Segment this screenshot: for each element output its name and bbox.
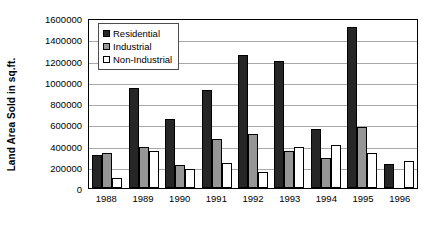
bar-industrial-1991 xyxy=(212,139,222,188)
y-axis-tick-label: 1000000 xyxy=(45,77,82,88)
bar-nonindustrial-1989 xyxy=(149,151,159,188)
legend-item-industrial: Industrial xyxy=(103,40,172,53)
bar-residential-1995 xyxy=(347,27,357,189)
bar-residential-1988 xyxy=(92,155,102,188)
y-axis-tick-label: 800000 xyxy=(50,99,82,110)
legend-label: Residential xyxy=(113,28,160,39)
bar-group-1993 xyxy=(271,20,307,188)
legend-item-non-industrial: Non-Industrial xyxy=(103,53,172,66)
bar-industrial-1989 xyxy=(139,147,149,188)
bar-nonindustrial-1996 xyxy=(404,161,414,188)
x-axis-tick-label: 1989 xyxy=(125,193,162,211)
bar-residential-1994 xyxy=(311,129,321,188)
bar-group-1996 xyxy=(381,20,417,188)
x-axis-tick-label: 1995 xyxy=(345,193,382,211)
bar-nonindustrial-1991 xyxy=(222,163,232,189)
bar-industrial-1993 xyxy=(284,151,294,188)
legend-label: Non-Industrial xyxy=(113,54,172,65)
x-axis-tick-label: 1988 xyxy=(88,193,125,211)
y-axis-tick-labels: 0200000400000600000800000100000012000001… xyxy=(22,14,86,189)
y-axis-tick-label: 0 xyxy=(77,184,82,195)
legend-swatch-icon xyxy=(103,43,110,50)
x-axis-tick-label: 1994 xyxy=(308,193,345,211)
bar-chart: Land Area Sold in sq.ft. 020000040000060… xyxy=(0,0,440,229)
x-axis-tick-label: 1991 xyxy=(198,193,235,211)
legend-label: Industrial xyxy=(113,41,152,52)
bar-group-1995 xyxy=(344,20,380,188)
bar-industrial-1994 xyxy=(321,158,331,188)
y-axis-tick-label: 1200000 xyxy=(45,56,82,67)
bar-residential-1996 xyxy=(384,164,394,188)
bar-group-1991 xyxy=(198,20,234,188)
legend-item-residential: Residential xyxy=(103,27,172,40)
y-axis-tick-label: 1600000 xyxy=(45,14,82,25)
x-axis-tick-label: 1990 xyxy=(161,193,198,211)
y-axis-tick-label: 1400000 xyxy=(45,35,82,46)
bar-nonindustrial-1993 xyxy=(294,147,304,188)
bar-nonindustrial-1988 xyxy=(112,178,122,188)
chart-legend: ResidentialIndustrialNon-Industrial xyxy=(98,23,179,70)
bar-industrial-1990 xyxy=(175,165,185,188)
bar-group-1992 xyxy=(235,20,271,188)
y-axis-tick-label: 400000 xyxy=(50,141,82,152)
legend-swatch-icon xyxy=(103,30,110,37)
y-axis-tick-label: 600000 xyxy=(50,120,82,131)
bar-industrial-1988 xyxy=(102,153,112,188)
bar-group-1994 xyxy=(308,20,344,188)
bar-industrial-1995 xyxy=(357,127,367,188)
legend-swatch-icon xyxy=(103,56,110,63)
bar-residential-1993 xyxy=(274,61,284,189)
y-axis-title: Land Area Sold in sq.ft. xyxy=(0,0,22,229)
x-axis-tick-label: 1993 xyxy=(271,193,308,211)
bar-nonindustrial-1995 xyxy=(367,153,377,188)
bar-nonindustrial-1994 xyxy=(331,145,341,188)
bar-residential-1989 xyxy=(129,88,139,188)
bar-industrial-1992 xyxy=(248,134,258,188)
bar-nonindustrial-1990 xyxy=(185,169,195,188)
x-axis-tick-label: 1992 xyxy=(235,193,272,211)
x-axis-tick-label: 1996 xyxy=(381,193,418,211)
bar-residential-1991 xyxy=(202,90,212,188)
bar-residential-1992 xyxy=(238,55,248,188)
bar-residential-1990 xyxy=(165,119,175,188)
x-axis-tick-labels: 198819891990199119921993199419951996 xyxy=(88,193,418,211)
bar-nonindustrial-1992 xyxy=(258,172,268,188)
y-axis-tick-label: 200000 xyxy=(50,162,82,173)
